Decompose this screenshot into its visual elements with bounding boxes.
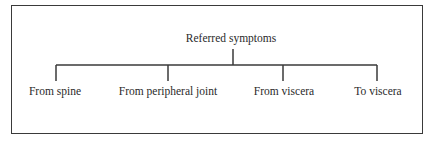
root-node-label: Referred symptoms <box>186 33 276 45</box>
child-node-label-to-viscera: To viscera <box>354 86 401 98</box>
tree-connectors <box>0 0 436 155</box>
child-node-label-from-viscera: From viscera <box>254 86 314 98</box>
child-node-label-from-peripheral-joint: From peripheral joint <box>119 86 217 98</box>
child-node-label-from-spine: From spine <box>29 86 81 98</box>
